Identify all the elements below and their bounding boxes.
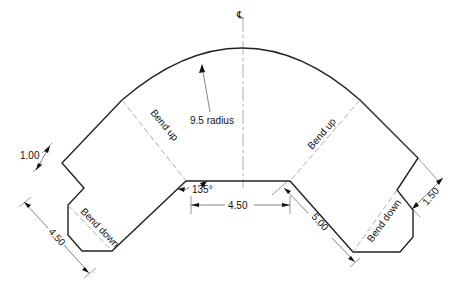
part-outline xyxy=(62,48,418,252)
bend-up-left-label: Bend up xyxy=(148,107,181,143)
extension-line xyxy=(272,181,288,195)
right-flange-label: 1.50 xyxy=(420,185,441,207)
radius-leader xyxy=(202,66,210,112)
arrow-icon xyxy=(348,256,355,262)
radius-label: 9.5 radius xyxy=(190,115,234,126)
arrow-icon xyxy=(282,203,290,207)
arrow-icon xyxy=(284,188,291,194)
arrow-icon xyxy=(44,146,50,153)
right-length-label: 5.00 xyxy=(310,211,331,233)
arrow-icon xyxy=(24,202,31,208)
left-flange-label: 1.00 xyxy=(20,150,40,161)
centerline-symbol: ℄ xyxy=(236,9,244,20)
angle-label: 135° xyxy=(192,184,213,195)
arrow-icon xyxy=(191,203,199,207)
sheet-metal-drawing: ℄ 9.5 radius Bend up Bend up Bend down B… xyxy=(0,0,475,293)
bend-up-right-label: Bend up xyxy=(305,116,338,152)
bottom-width-label: 4.50 xyxy=(228,200,248,211)
bend-down-left-label: Bend down xyxy=(79,206,122,250)
bend-down-right-label: Bend down xyxy=(365,197,403,244)
arrow-icon xyxy=(82,267,89,273)
arrow-icon xyxy=(199,64,205,73)
extension-line xyxy=(418,158,440,183)
bend-line-right-up xyxy=(290,100,360,181)
left-length-label: 4.50 xyxy=(47,226,68,248)
